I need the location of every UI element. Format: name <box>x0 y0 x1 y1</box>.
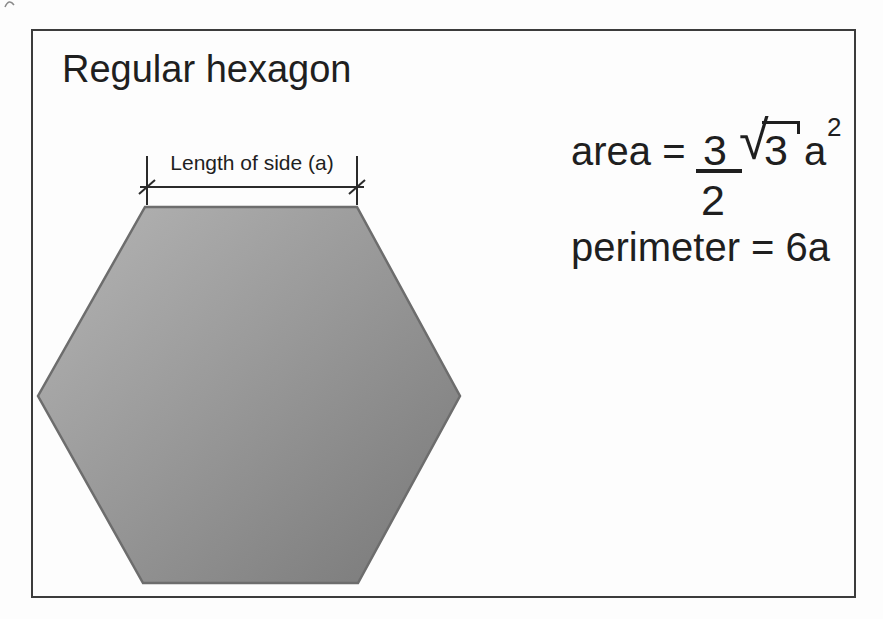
perimeter-formula: perimeter = 6a <box>571 227 830 267</box>
scan-artifact-mark <box>5 2 14 7</box>
radicand: 3 <box>762 121 797 172</box>
area-fraction-numerator: 3 <box>703 129 727 172</box>
area-variable: a <box>804 131 826 171</box>
area-exponent: 2 <box>827 114 841 140</box>
radical-bar-end-tick <box>797 121 800 134</box>
area-formula-lhs: area = <box>571 131 686 171</box>
hexagon-shape <box>38 207 460 583</box>
area-fraction-bar <box>696 169 742 173</box>
area-fraction-denominator: 2 <box>701 179 725 222</box>
book-page: Regular hexagon Length of side (a) area … <box>0 0 883 619</box>
page-title: Regular hexagon <box>62 50 351 88</box>
hexagon-diagram <box>0 0 883 619</box>
side-length-label: Length of side (a) <box>147 152 357 173</box>
